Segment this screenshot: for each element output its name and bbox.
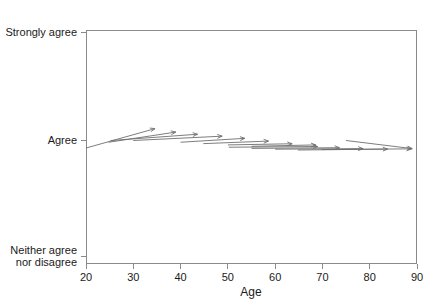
y-tick-label-neither-line1: Neither agree (10, 244, 77, 256)
x-tick-label-80: 80 (364, 271, 376, 283)
y-tick-label-strongly-agree: Strongly agree (5, 26, 77, 38)
x-tick-label-70: 70 (316, 271, 328, 283)
x-tick-label-60: 60 (269, 271, 281, 283)
x-tick-label-50: 50 (222, 271, 234, 283)
chart-container: Strongly agree Agree Neither agree nor d… (0, 0, 435, 306)
x-tick-label-20: 20 (80, 271, 92, 283)
x-axis-title: Age (240, 285, 262, 299)
y-tick-label-neither-line2: nor disagree (16, 256, 77, 268)
x-tick-label-30: 30 (127, 271, 139, 283)
y-tick-label-agree: Agree (48, 134, 77, 146)
x-tick-label-40: 40 (174, 271, 186, 283)
arrow-chart: Strongly agree Agree Neither agree nor d… (0, 0, 435, 306)
x-tick-label-90: 90 (411, 271, 423, 283)
